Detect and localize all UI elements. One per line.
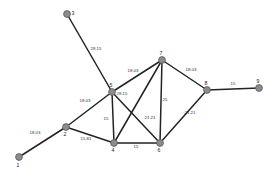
graph-node-4[interactable] bbox=[111, 140, 118, 147]
node-label-8: 8 bbox=[205, 80, 208, 86]
node-label-6: 6 bbox=[158, 147, 161, 153]
edge-weight-label: 15 bbox=[104, 116, 109, 121]
edge-labels-layer: 18.0318.0315.8128.151518.0328.151521.212… bbox=[30, 46, 236, 149]
graph-node-6[interactable] bbox=[157, 140, 164, 147]
nodes-layer bbox=[16, 11, 263, 161]
edge-weight-label: 28.15 bbox=[117, 91, 128, 96]
edge-weight-label: 21.21 bbox=[145, 115, 156, 120]
node-label-5: 5 bbox=[110, 82, 113, 88]
edge-weight-label: 18.03 bbox=[186, 67, 197, 72]
node-label-2: 2 bbox=[64, 131, 67, 137]
edge-weight-label: 28.15 bbox=[91, 46, 102, 51]
edge-weight-label: 15 bbox=[134, 144, 139, 149]
edge-weight-label: 21.21 bbox=[185, 110, 196, 115]
graph-edge bbox=[162, 60, 207, 90]
graph-node-5[interactable] bbox=[109, 89, 116, 96]
edge-weight-label: 25 bbox=[163, 97, 168, 102]
graph-node-8[interactable] bbox=[204, 87, 211, 94]
edge-weight-label: 15 bbox=[231, 81, 236, 86]
edge-weight-label: 18.03 bbox=[128, 68, 139, 73]
graph-node-1[interactable] bbox=[16, 154, 23, 161]
graph-edge bbox=[67, 14, 112, 92]
node-label-4: 4 bbox=[112, 147, 115, 153]
graph-edge bbox=[207, 88, 259, 90]
graph-edge bbox=[112, 60, 162, 92]
graph-node-2[interactable] bbox=[63, 124, 70, 131]
node-label-1: 1 bbox=[17, 162, 20, 168]
graph-node-9[interactable] bbox=[256, 85, 263, 92]
edge-weight-label: 15.81 bbox=[81, 136, 92, 141]
graph-node-3[interactable] bbox=[64, 11, 71, 18]
graph-node-7[interactable] bbox=[159, 57, 166, 64]
node-label-9: 9 bbox=[257, 78, 260, 84]
graph-edge bbox=[112, 92, 114, 143]
edge-weight-label: 18.03 bbox=[80, 98, 91, 103]
graph-svg: 18.0318.0315.8128.151518.0328.151521.212… bbox=[0, 0, 274, 179]
edges-layer bbox=[19, 14, 259, 157]
node-label-3: 3 bbox=[72, 10, 75, 16]
node-label-7: 7 bbox=[160, 50, 163, 56]
edge-weight-label: 18.03 bbox=[30, 130, 41, 135]
graph-diagram-canvas: 18.0318.0315.8128.151518.0328.151521.212… bbox=[0, 0, 274, 179]
graph-edge bbox=[19, 127, 66, 157]
